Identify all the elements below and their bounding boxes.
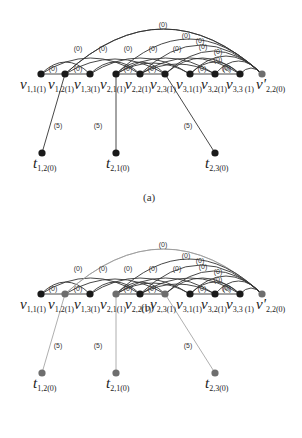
- edge-weight-label: (0): [159, 241, 168, 249]
- node-v1-1: [37, 290, 44, 297]
- node-label: v2,3(1): [150, 296, 176, 314]
- node-label: v1,1(1): [20, 76, 46, 94]
- edge-weight-label: (0): [214, 56, 223, 64]
- node-v2-1: [112, 290, 119, 297]
- terminal-label: t1,2(0): [33, 375, 57, 393]
- node-t2-3: [211, 149, 218, 156]
- edge-weight-label: (5): [54, 122, 63, 130]
- node-label: v3,3 (1): [226, 76, 254, 94]
- node-label: v2,2(1): [125, 76, 151, 94]
- panel-a-caption: (a): [143, 191, 156, 204]
- node-label: v3,2(1): [201, 296, 227, 314]
- node-label: v1,2(1): [48, 296, 74, 314]
- edge-weight-label: (0): [214, 268, 223, 276]
- node-label: v3,1(1): [176, 76, 202, 94]
- node-label: v2,1(1): [100, 296, 126, 314]
- edge-weight-label: (0): [222, 64, 231, 72]
- terminal-label: t2,1(0): [106, 155, 130, 173]
- node-v3-1: [186, 70, 193, 77]
- node-t2-3: [211, 369, 218, 376]
- edge-weight-label: (0): [49, 285, 58, 293]
- node-v1-2: [61, 70, 68, 77]
- edge-weight-label: (0): [199, 43, 208, 51]
- edge-weight-label: (0): [74, 265, 83, 273]
- edge-weight-label: (0): [198, 285, 207, 293]
- node-v3-3: [236, 70, 243, 77]
- edge-weight-label: (0): [159, 21, 168, 29]
- edge-weight-label: (0): [148, 285, 157, 293]
- node-v3-3: [236, 290, 243, 297]
- node-label: v3,1(1): [176, 296, 202, 314]
- edge-weight-label: (5): [184, 122, 193, 130]
- node-v3-1: [186, 290, 193, 297]
- panel-a: (0)(0)(0)(0)(0)(0)(0)(0)(0)(0)(0)(0)(0)(…: [20, 21, 286, 204]
- node-v1-2: [61, 290, 68, 297]
- edge-weight-label: (0): [182, 252, 191, 260]
- edge-weight-label: (0): [74, 285, 83, 293]
- edge-weight-label: (0): [148, 65, 157, 73]
- edge-weight-label: (0): [173, 265, 182, 273]
- node-v3-2: [211, 290, 218, 297]
- edge-weight-label: (0): [99, 45, 108, 53]
- edge-weight-label: (0): [99, 265, 108, 273]
- edge-weight-label: (0): [49, 65, 58, 73]
- terminal-label: t2,3(0): [205, 155, 229, 173]
- node-v3-2: [211, 70, 218, 77]
- edge-weight-label: (0): [149, 45, 158, 53]
- terminal-label: t2,1(0): [106, 375, 130, 393]
- node-label: v1,1(1): [20, 296, 46, 314]
- edge-weight-label: (5): [54, 342, 63, 350]
- node-v2-3: [161, 70, 168, 77]
- terminal-label: t1,2(0): [33, 155, 57, 173]
- edge-weight-label: (0): [199, 263, 208, 271]
- edge-weight-label: (5): [184, 342, 193, 350]
- edge-weight-label: (5): [94, 342, 103, 350]
- node-v1-1: [37, 70, 44, 77]
- node-v2-1: [112, 70, 119, 77]
- node-label: v1,2(1): [48, 76, 74, 94]
- node-v2-2: [136, 70, 143, 77]
- edge-weight-label: (0): [124, 65, 133, 73]
- terminal-label: t2,3(0): [205, 375, 229, 393]
- edge-weight-label: (0): [198, 65, 207, 73]
- node-label: v1,3(1): [74, 76, 100, 94]
- node-label: v2,3(1): [150, 76, 176, 94]
- edge-weight-label: (0): [74, 45, 83, 53]
- node-label: v3,2(1): [201, 76, 227, 94]
- edge-weight-label: (0): [222, 284, 231, 292]
- edge-weight-label: (0): [182, 32, 191, 40]
- node-v1-3: [86, 70, 93, 77]
- edge-weight-label: (0): [124, 285, 133, 293]
- edge-weight-label: (0): [124, 265, 133, 273]
- node-v2-3: [161, 290, 168, 297]
- edge-weight-label: (0): [173, 45, 182, 53]
- edge-weight-label: (0): [74, 65, 83, 73]
- edge-weight-label: (0): [149, 265, 158, 273]
- edge-weight-label: (0): [214, 276, 223, 284]
- node-label: v'2,2(0): [256, 76, 286, 94]
- node-t1-2: [38, 149, 45, 156]
- node-label: v3,3 (1): [226, 296, 254, 314]
- panel-b-caption: (b): [141, 301, 154, 314]
- diagram-canvas: (0)(0)(0)(0)(0)(0)(0)(0)(0)(0)(0)(0)(0)(…: [0, 0, 302, 438]
- edge-weight-label: (0): [124, 45, 133, 53]
- node-v1-3: [86, 290, 93, 297]
- edge-weight-label: (5): [94, 122, 103, 130]
- node-v2-2: [136, 290, 143, 297]
- node-t2-1: [112, 369, 119, 376]
- node-label: v2,1(1): [100, 76, 126, 94]
- edge-weight-label: (0): [214, 48, 223, 56]
- panel-b: (0)(0)(0)(0)(0)(0)(0)(0)(0)(0)(0)(0)(0)(…: [20, 241, 286, 393]
- node-t1-2: [38, 369, 45, 376]
- node-t2-1: [112, 149, 119, 156]
- node-label: v1,3(1): [74, 296, 100, 314]
- node-label: v'2,2(0): [256, 296, 286, 314]
